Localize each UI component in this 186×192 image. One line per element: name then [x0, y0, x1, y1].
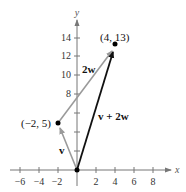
point-label-minus2-5: (−2, 5) — [21, 117, 51, 130]
x-tick-label: 2 — [94, 176, 99, 187]
vector-label-v: v — [59, 144, 65, 156]
y-tick-label: 8 — [66, 88, 71, 99]
point-label-4-13: (4, 13) — [100, 31, 130, 44]
x-tick-label: 8 — [151, 176, 156, 187]
vector-label-2w: 2w — [82, 63, 96, 75]
x-tick-label: 4 — [113, 176, 118, 187]
y-tick-label: 10 — [61, 69, 71, 80]
y-tick-label: 14 — [61, 32, 71, 43]
y-tick-label: 12 — [61, 50, 71, 61]
x-axis-label: x — [174, 164, 180, 175]
point-minus2-5 — [56, 121, 61, 126]
y-axis-label: y — [74, 7, 80, 18]
x-tick-label: −4 — [34, 176, 45, 187]
point-origin — [75, 168, 80, 173]
x-tick-label: −6 — [15, 176, 26, 187]
x-axis: −6 −4 −2 2 4 6 8 x — [10, 164, 180, 187]
vector-diagram: −6 −4 −2 2 4 6 8 x 8 10 12 14 y (4, 1 — [0, 0, 186, 192]
vector-label-v-plus-2w: v + 2w — [98, 110, 129, 122]
x-tick-label: 6 — [132, 176, 137, 187]
x-tick-label: −2 — [52, 176, 63, 187]
